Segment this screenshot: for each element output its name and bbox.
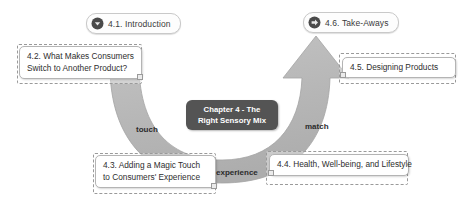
badge-4-6-take-aways[interactable]: 4.6. Take-Aways: [303, 12, 399, 33]
circle-chevron-down-icon: [91, 17, 104, 30]
badge-label: 4.6. Take-Aways: [325, 18, 389, 28]
chapter-title-line1: Chapter 4 - The: [204, 104, 261, 115]
diagram-canvas: 4.1. Introduction 4.6. Take-Aways 4.2. W…: [0, 0, 458, 204]
stage-label-experience: experience: [216, 168, 258, 177]
badge-4-1-introduction[interactable]: 4.1. Introduction: [86, 13, 181, 34]
node-4-3-line2: to Consumers' Experience: [103, 172, 208, 184]
node-4-4-resize-handle[interactable]: [268, 170, 274, 176]
chapter-title-box[interactable]: Chapter 4 - The Right Sensory Mix: [186, 100, 278, 130]
stage-label-match: match: [305, 122, 329, 131]
node-4-5-resize-handle[interactable]: [340, 72, 346, 78]
circle-arrow-right-icon: [308, 16, 321, 29]
chapter-title-line2: Right Sensory Mix: [198, 115, 266, 126]
node-4-4-card[interactable]: 4.4. Health, Well-being, and Lifestyle: [269, 154, 409, 176]
node-4-4-line1: 4.4. Health, Well-being, and Lifestyle: [277, 159, 401, 171]
node-4-5-line1: 4.5. Designing Products: [350, 62, 448, 74]
node-4-5-card[interactable]: 4.5. Designing Products: [342, 57, 456, 78]
node-4-2-card[interactable]: 4.2. What Makes Consumers Switch to Anot…: [19, 46, 142, 79]
node-4-3-line1: 4.3. Adding a Magic Touch: [103, 160, 208, 172]
node-4-2-line1: 4.2. What Makes Consumers: [27, 51, 134, 63]
node-4-2-resize-handle[interactable]: [137, 74, 143, 80]
node-4-3-resize-handle[interactable]: [211, 183, 217, 189]
stage-label-touch: touch: [136, 125, 158, 134]
node-4-3-card[interactable]: 4.3. Adding a Magic Touch to Consumers' …: [95, 155, 216, 188]
badge-label: 4.1. Introduction: [108, 19, 171, 29]
node-4-2-line2: Switch to Another Product?: [27, 63, 134, 75]
